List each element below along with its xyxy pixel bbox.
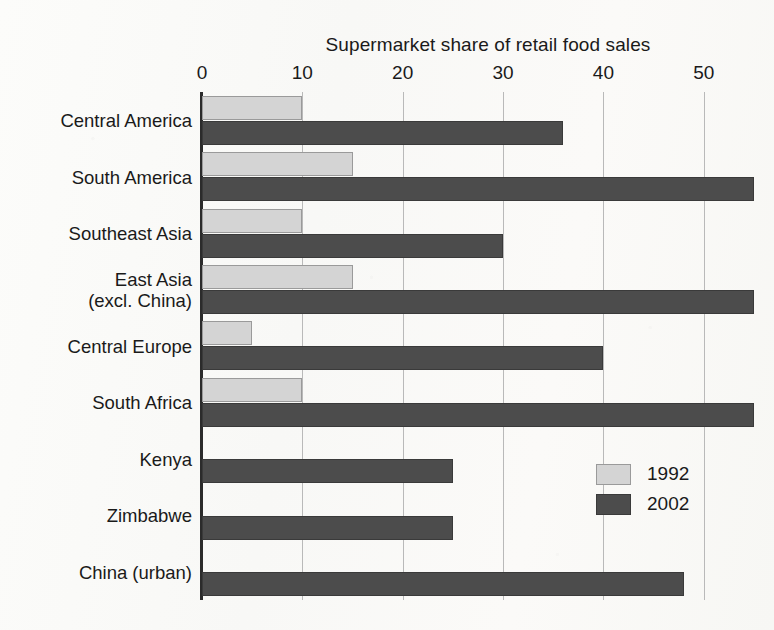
chart-title: Supermarket share of retail food sales — [202, 34, 774, 56]
bar-1992 — [202, 152, 353, 176]
bar-row — [202, 374, 774, 430]
x-axis-tick-label: 30 — [492, 62, 513, 84]
bar-2002 — [202, 572, 684, 596]
bar-2002 — [202, 121, 563, 145]
x-axis-tick-label: 10 — [292, 62, 313, 84]
bar-row — [202, 148, 774, 204]
x-axis-tick-label: 50 — [693, 62, 714, 84]
bar-rows — [202, 92, 774, 600]
bar-1992 — [202, 209, 302, 233]
legend-label: 1992 — [647, 463, 689, 485]
bar-1992 — [202, 265, 353, 289]
chart-legend: 19922002 — [596, 459, 728, 519]
y-axis-category-label: Kenya — [0, 448, 192, 469]
bar-1992 — [202, 378, 302, 402]
y-axis-category-label: South America — [0, 166, 192, 187]
x-axis-tick-label: 0 — [197, 62, 208, 84]
bar-2002 — [202, 177, 754, 201]
bar-1992 — [202, 321, 252, 345]
legend-swatch-icon — [596, 494, 631, 515]
y-axis-category-label: Southeast Asia — [0, 223, 192, 244]
y-axis-category-label: South Africa — [0, 392, 192, 413]
bar-row — [202, 318, 774, 374]
x-axis-tick-label: 20 — [392, 62, 413, 84]
bar-2002 — [202, 459, 453, 483]
bar-2002 — [202, 403, 754, 427]
bar-1992 — [202, 96, 302, 120]
chart-figure: Supermarket share of retail food sales 0… — [0, 0, 774, 630]
legend-entry: 1992 — [596, 459, 728, 489]
bar-row — [202, 205, 774, 261]
bar-2002 — [202, 290, 754, 314]
bar-row — [202, 544, 774, 600]
bar-row — [202, 261, 774, 317]
y-axis-category-label: Central America — [0, 110, 192, 131]
y-axis-category-label: East Asia (excl. China) — [0, 269, 192, 311]
bar-2002 — [202, 234, 503, 258]
x-axis-tick-labels: 01020304050 — [0, 62, 774, 88]
bar-2002 — [202, 346, 603, 370]
y-axis-category-label: Central Europe — [0, 336, 192, 357]
y-axis-category-labels: Central AmericaSouth AmericaSoutheast As… — [0, 92, 192, 600]
plot-area — [202, 92, 774, 600]
y-axis-category-label: China (urban) — [0, 561, 192, 582]
bar-row — [202, 92, 774, 148]
y-axis-category-label: Zimbabwe — [0, 505, 192, 526]
bar-2002 — [202, 516, 453, 540]
legend-label: 2002 — [647, 493, 689, 515]
legend-swatch-icon — [596, 464, 631, 485]
x-axis-tick-label: 40 — [593, 62, 614, 84]
legend-entry: 2002 — [596, 489, 728, 519]
